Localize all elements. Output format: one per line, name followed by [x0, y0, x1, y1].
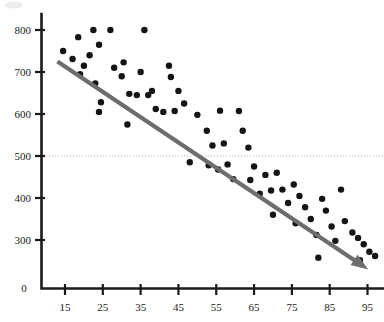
data-point: [302, 204, 308, 210]
x-tick-label: 75: [286, 301, 298, 313]
data-point: [296, 193, 302, 199]
y-tick-label: 700: [15, 66, 32, 78]
data-point: [160, 109, 166, 115]
data-point: [268, 187, 274, 193]
data-point: [240, 128, 246, 134]
data-point: [247, 177, 253, 183]
scan-artifact: [5, 2, 23, 9]
data-point: [96, 42, 102, 48]
data-point: [81, 62, 87, 68]
x-tick-label: 45: [173, 301, 185, 313]
data-point: [274, 170, 280, 176]
data-point: [86, 52, 92, 58]
data-point: [270, 212, 276, 218]
data-point: [126, 91, 132, 97]
data-point: [166, 62, 172, 68]
y-tick-label: 300: [15, 234, 32, 246]
x-tick-label: 85: [324, 301, 336, 313]
data-point: [366, 249, 372, 255]
data-point: [204, 128, 210, 134]
data-point: [372, 253, 378, 259]
data-point: [236, 108, 242, 114]
y-tick-label: 400: [15, 192, 32, 204]
data-point: [323, 207, 329, 213]
data-point: [171, 108, 177, 114]
data-point: [308, 216, 314, 222]
data-point: [328, 223, 334, 229]
data-point: [349, 229, 355, 235]
data-point: [120, 59, 126, 65]
data-point: [291, 181, 297, 187]
data-point: [315, 254, 321, 260]
data-point: [90, 27, 96, 33]
x-tick-label: 35: [135, 301, 147, 313]
data-point: [181, 100, 187, 106]
data-point: [141, 27, 147, 33]
data-point: [168, 74, 174, 80]
data-point: [153, 106, 159, 112]
data-point: [217, 107, 223, 113]
x-tick-label: 25: [97, 301, 109, 313]
origin-tick-label: 0: [21, 282, 27, 294]
data-point: [107, 27, 113, 33]
data-point: [338, 186, 344, 192]
data-point: [111, 65, 117, 71]
x-tick-label: 65: [249, 301, 261, 313]
data-point: [98, 99, 104, 105]
data-point: [134, 92, 140, 98]
x-tick-label: 15: [60, 301, 72, 313]
y-tick-label: 800: [15, 24, 32, 36]
data-point: [175, 88, 181, 94]
data-point: [355, 235, 361, 241]
data-point: [279, 186, 285, 192]
data-point: [245, 144, 251, 150]
x-tick-label: 95: [362, 301, 374, 313]
data-point: [251, 163, 257, 169]
data-point: [119, 73, 125, 79]
data-point: [361, 241, 367, 247]
data-point: [69, 56, 75, 62]
data-point: [60, 48, 66, 54]
scatter-plot-figure: 300400500600700800 152535455565758595 0: [0, 0, 384, 322]
data-point: [137, 69, 143, 75]
data-point: [224, 161, 230, 167]
data-point: [194, 112, 200, 118]
y-tick-label: 600: [15, 108, 32, 120]
data-point: [96, 109, 102, 115]
data-point: [285, 200, 291, 206]
data-point: [209, 142, 215, 148]
data-point: [221, 140, 227, 146]
x-tick-label: 55: [211, 301, 223, 313]
data-point: [75, 34, 81, 40]
data-point: [262, 172, 268, 178]
y-tick-label: 500: [15, 150, 32, 162]
data-point: [342, 218, 348, 224]
data-point: [319, 196, 325, 202]
data-point: [149, 88, 155, 94]
data-point: [124, 121, 130, 127]
data-point: [332, 238, 338, 244]
data-point: [187, 159, 193, 165]
